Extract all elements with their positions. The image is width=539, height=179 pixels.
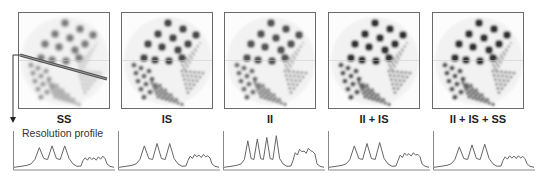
arrow-down-icon (10, 117, 16, 123)
profile-sample-line-highlight (20, 55, 107, 79)
arrow-connector (13, 55, 20, 118)
profile-line-overlay (0, 0, 539, 179)
